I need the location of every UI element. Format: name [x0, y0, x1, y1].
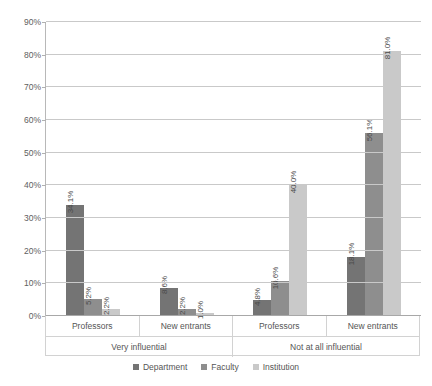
category-label: Professors [233, 316, 327, 336]
bar-slot: 34.1% [66, 22, 84, 316]
legend-label: Institution [263, 362, 299, 372]
y-axis-tick-label: 70% [24, 83, 41, 92]
legend-swatch-icon [253, 364, 259, 370]
bar-value-label: 2.2% [103, 297, 111, 315]
y-axis-tick-label: 0% [29, 312, 41, 321]
category-axis-tier2: Very influentialNot at all influential [46, 336, 419, 357]
bar-group: 18.1%56.1%81.0% [327, 22, 421, 316]
bar-slot: 8.6% [160, 22, 178, 316]
y-axis-tick-mark [42, 120, 46, 121]
y-axis-tick-mark [42, 153, 46, 154]
bar[interactable]: 18.1% [347, 257, 365, 316]
bar[interactable]: 4.8% [253, 300, 271, 316]
legend-item[interactable]: Institution [253, 362, 299, 372]
category-axis: ProfessorsNew entrantsProfessorsNew entr… [45, 316, 420, 356]
bar-value-label: 81.0% [384, 37, 392, 60]
y-axis-tick-mark [42, 251, 46, 252]
gridline: 30% [46, 217, 421, 218]
y-axis-tick-label: 90% [24, 18, 41, 27]
bar-value-label: 56.1% [366, 118, 374, 141]
gridline: 20% [46, 250, 421, 251]
bar-slot: 81.0% [383, 22, 401, 316]
bar[interactable]: 56.1% [365, 133, 383, 316]
bar-slot: 56.1% [365, 22, 383, 316]
y-axis-tick-mark [42, 87, 46, 88]
bar-value-label: 2.2% [179, 297, 187, 315]
y-axis-tick-label: 60% [24, 116, 41, 125]
gridline: 90% [46, 21, 421, 22]
bar-value-label: 8.6% [161, 276, 169, 294]
bar-slot: 40.0% [289, 22, 307, 316]
bar[interactable]: 8.6% [160, 288, 178, 316]
bar[interactable]: 10.6% [271, 281, 289, 316]
category-label: Professors [46, 316, 140, 336]
bar-group: 34.1%5.2%2.2% [46, 22, 140, 316]
category-group-label: Very influential [46, 337, 233, 357]
plot-area-wrapper: 34.1%5.2%2.2%8.6%2.2%1.0%4.8%10.6%40.0%1… [45, 22, 420, 316]
bar-slot: 4.8% [253, 22, 271, 316]
category-axis-tier1: ProfessorsNew entrantsProfessorsNew entr… [46, 316, 419, 336]
gridline: 50% [46, 152, 421, 153]
y-axis-tick-mark [42, 55, 46, 56]
legend-label: Department [143, 362, 187, 372]
bar-set: 18.1%56.1%81.0% [327, 22, 421, 316]
bar[interactable]: 5.2% [84, 299, 102, 316]
gridline: 40% [46, 184, 421, 185]
bar-group: 8.6%2.2%1.0% [140, 22, 234, 316]
y-axis-tick-label: 20% [24, 246, 41, 255]
y-axis-tick-mark [42, 283, 46, 284]
legend-item[interactable]: Department [133, 362, 187, 372]
legend-label: Faculty [211, 362, 238, 372]
category-label: New entrants [140, 316, 234, 336]
y-axis-tick-mark [42, 218, 46, 219]
bar-slot: 2.2% [178, 22, 196, 316]
bar-value-label: 5.2% [85, 287, 93, 305]
y-axis-tick-label: 50% [24, 148, 41, 157]
bar-group: 4.8%10.6%40.0% [234, 22, 328, 316]
chart-legend: DepartmentFacultyInstitution [0, 362, 432, 372]
bar-groups: 34.1%5.2%2.2%8.6%2.2%1.0%4.8%10.6%40.0%1… [46, 22, 421, 316]
gridline: 80% [46, 54, 421, 55]
y-axis-tick-mark [42, 22, 46, 23]
category-group-label: Not at all influential [233, 337, 419, 357]
plot-area: 34.1%5.2%2.2%8.6%2.2%1.0%4.8%10.6%40.0%1… [45, 22, 421, 316]
bar-value-label: 4.8% [254, 288, 262, 306]
bar-set: 4.8%10.6%40.0% [234, 22, 328, 316]
bar-value-label: 10.6% [272, 267, 280, 290]
bar[interactable]: 40.0% [289, 185, 307, 316]
category-label: New entrants [327, 316, 420, 336]
y-axis-tick-mark [42, 185, 46, 186]
y-axis-tick-label: 10% [24, 279, 41, 288]
bar-chart: 34.1%5.2%2.2%8.6%2.2%1.0%4.8%10.6%40.0%1… [0, 0, 432, 386]
bar[interactable]: 34.1% [66, 205, 84, 316]
y-axis-tick-label: 80% [24, 50, 41, 59]
legend-swatch-icon [133, 364, 139, 370]
bar-value-label: 40.0% [290, 171, 298, 194]
bar-slot: 10.6% [271, 22, 289, 316]
y-axis-tick-label: 30% [24, 214, 41, 223]
bar-slot: 2.2% [102, 22, 120, 316]
legend-swatch-icon [201, 364, 207, 370]
legend-item[interactable]: Faculty [201, 362, 238, 372]
gridline: 60% [46, 119, 421, 120]
gridline: 70% [46, 86, 421, 87]
bar-value-label: 34.1% [67, 190, 75, 213]
y-axis-tick-label: 40% [24, 181, 41, 190]
bar-slot: 1.0% [196, 22, 214, 316]
bar-set: 34.1%5.2%2.2% [46, 22, 140, 316]
gridline: 10% [46, 282, 421, 283]
bar-slot: 5.2% [84, 22, 102, 316]
bar-set: 8.6%2.2%1.0% [140, 22, 234, 316]
bar-value-label: 18.1% [348, 243, 356, 266]
bar-slot: 18.1% [347, 22, 365, 316]
